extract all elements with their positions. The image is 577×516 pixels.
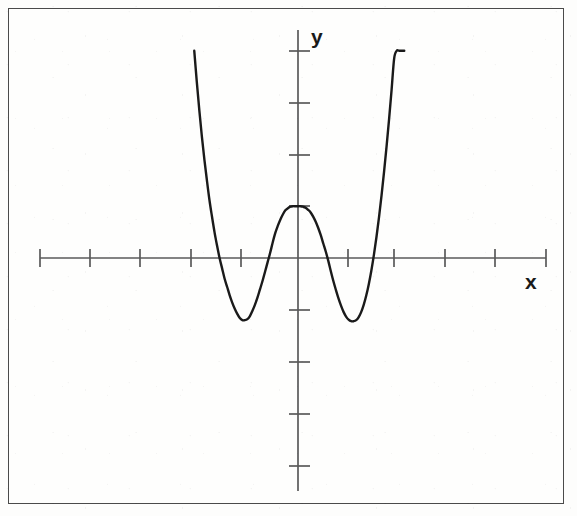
y-axis-label: y	[311, 26, 323, 47]
quartic-curve-path	[194, 50, 404, 321]
x-axis-group	[40, 249, 546, 267]
plot-canvas	[0, 0, 577, 516]
x-axis-label: x	[525, 271, 537, 292]
y-axis-group	[289, 30, 310, 491]
figure-root: y x	[0, 0, 577, 516]
